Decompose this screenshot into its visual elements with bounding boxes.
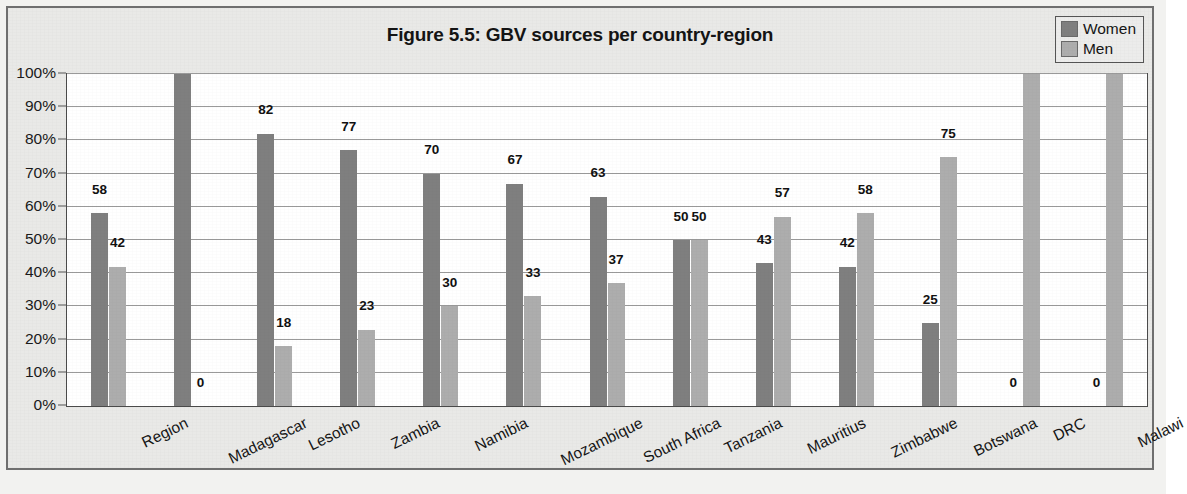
- bar-value-label: 37: [608, 252, 623, 268]
- y-axis-tick-label: 40%: [25, 263, 56, 281]
- page-text-sliver: [8, 476, 1128, 490]
- bar-value-label: 33: [525, 265, 540, 281]
- bar-value-label: 75: [941, 126, 956, 142]
- legend-item-men: Men: [1061, 40, 1136, 58]
- bar-value-label: 18: [276, 315, 291, 331]
- legend-label: Men: [1083, 40, 1113, 58]
- bar-group: 0: [1088, 74, 1123, 406]
- legend-swatch-icon: [1061, 21, 1078, 37]
- y-axis-tick-label: 70%: [25, 164, 56, 182]
- bar-men: [109, 267, 126, 406]
- x-axis-label: Mauritius: [805, 414, 869, 458]
- y-axis-tick-label: 50%: [25, 230, 56, 248]
- bar-value-label: 70: [424, 143, 439, 159]
- y-axis-tick-mark: [58, 338, 66, 339]
- y-axis-tick-mark: [58, 305, 66, 306]
- bar-women: [91, 213, 108, 406]
- bar-women: [506, 184, 523, 406]
- legend-swatch-icon: [1061, 41, 1078, 57]
- bar-group: 7723: [340, 74, 375, 406]
- y-axis-tick-mark: [58, 205, 66, 206]
- bar-men: [857, 213, 874, 406]
- bar-women: [922, 323, 939, 406]
- bar-value-label: 0: [1010, 375, 1018, 391]
- x-axis-label: Madagascar: [225, 414, 310, 468]
- y-axis-tick-mark: [58, 106, 66, 107]
- bar-value-label: 0: [197, 375, 205, 391]
- chart-title: Figure 5.5: GBV sources per country-regi…: [8, 24, 1152, 46]
- bar-women: [423, 174, 440, 406]
- bar-women: [174, 74, 191, 406]
- y-axis-tick-mark: [58, 139, 66, 140]
- x-axis-label: Zambia: [388, 414, 442, 453]
- y-axis: 0%10%20%30%40%50%60%70%80%90%100%: [8, 66, 66, 408]
- y-axis-tick-label: 30%: [25, 296, 56, 314]
- x-axis-label: Region: [139, 414, 191, 452]
- bar-women: [257, 134, 274, 406]
- bar-women: [756, 263, 773, 406]
- bar-men: [608, 283, 625, 406]
- y-axis-tick-label: 90%: [25, 97, 56, 115]
- bar-group: 4357: [756, 74, 791, 406]
- bar-value-label: 63: [590, 166, 605, 182]
- bar-men: [524, 296, 541, 406]
- bar-group: 7030: [423, 74, 458, 406]
- bar-women: [673, 240, 690, 406]
- y-axis-tick-label: 10%: [25, 363, 56, 381]
- bar-group: 6337: [590, 74, 625, 406]
- bar-men: [1106, 74, 1123, 406]
- bar-value-label: 67: [507, 153, 522, 169]
- x-axis-label: Namibia: [472, 414, 531, 455]
- y-axis-tick-label: 0%: [34, 396, 56, 414]
- x-axis-label: Zimbabwe: [888, 414, 960, 462]
- y-axis-tick-label: 60%: [25, 197, 56, 215]
- bar-value-label: 25: [923, 292, 938, 308]
- y-axis-tick-mark: [58, 73, 66, 74]
- bar-men: [691, 240, 708, 406]
- legend-label: Women: [1083, 20, 1136, 38]
- bar-men: [441, 306, 458, 406]
- y-axis-tick-label: 20%: [25, 330, 56, 348]
- bar-men: [1023, 74, 1040, 406]
- y-axis-tick-label: 80%: [25, 130, 56, 148]
- y-axis-tick-mark: [58, 272, 66, 273]
- bar-men: [774, 217, 791, 406]
- x-axis-label: Botswana: [971, 414, 1040, 460]
- y-axis-tick-mark: [58, 405, 66, 406]
- bar-group: 0: [174, 74, 209, 406]
- bar-value-label: 23: [359, 299, 374, 315]
- bar-group: 8218: [257, 74, 292, 406]
- x-axis-label: Tanzania: [721, 414, 785, 457]
- legend-item-women: Women: [1061, 20, 1136, 38]
- chart-frame: Figure 5.5: GBV sources per country-regi…: [6, 6, 1154, 470]
- plot-area: 5842082187723703067336337505043574258257…: [66, 73, 1148, 407]
- bar-group: 6733: [506, 74, 541, 406]
- bar-value-label: 30: [442, 275, 457, 291]
- x-axis-label: Mozambique: [558, 414, 646, 469]
- y-axis-tick-label: 100%: [16, 64, 56, 82]
- x-axis-label: South Africa: [640, 414, 723, 467]
- bar-value-label: 58: [92, 182, 107, 198]
- chart-legend: WomenMen: [1055, 16, 1144, 63]
- y-axis-tick-mark: [58, 239, 66, 240]
- bar-value-label: 57: [775, 186, 790, 202]
- bar-value-label: 50: [674, 209, 689, 225]
- x-axis-label: DRC: [1051, 414, 1089, 445]
- bar-women: [839, 267, 856, 406]
- bar-value-label: 58: [858, 182, 873, 198]
- bar-men: [940, 157, 957, 406]
- y-axis-tick-mark: [58, 371, 66, 372]
- x-axis-label: Malawi: [1135, 414, 1186, 451]
- bar-group: 5050: [673, 74, 708, 406]
- bar-men: [275, 346, 292, 406]
- bar-value-label: 50: [692, 209, 707, 225]
- x-axis-label: Lesotho: [305, 414, 362, 454]
- bar-value-label: 82: [258, 103, 273, 119]
- bar-women: [340, 150, 357, 406]
- y-axis-tick-mark: [58, 172, 66, 173]
- bar-group: 5842: [91, 74, 126, 406]
- bar-value-label: 77: [341, 119, 356, 135]
- bar-group: 2575: [922, 74, 957, 406]
- bar-value-label: 42: [840, 236, 855, 252]
